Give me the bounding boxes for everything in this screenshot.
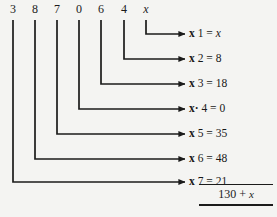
result-value-4: 35: [216, 127, 228, 139]
result-label-1: x 2 = 8: [189, 53, 221, 65]
result-multiplier-2: 3 =: [195, 77, 216, 89]
result-value-5: 48: [216, 152, 228, 164]
result-value-2: 18: [216, 77, 228, 89]
result-value-3: 0: [219, 102, 225, 114]
result-multiplier-5: 6 =: [195, 152, 216, 164]
branch-connector-0: [146, 20, 185, 34]
result-multiplier-0: 1 =: [195, 27, 216, 39]
result-multiplier-4: 5 =: [195, 127, 216, 139]
source-digit-1: 8: [28, 3, 42, 15]
result-label-5: x 6 = 48: [189, 153, 227, 165]
branch-connector-1: [124, 20, 185, 59]
result-multiplier-1: 2 =: [195, 52, 216, 64]
branch-connector-4: [57, 20, 185, 134]
result-label-2: x 3 = 18: [189, 78, 227, 90]
source-digit-6: x: [139, 3, 153, 15]
result-value-0: x: [216, 27, 221, 39]
branch-connector-6: [13, 20, 185, 182]
source-digit-0: 3: [6, 3, 20, 15]
source-digit-4: 6: [94, 3, 108, 15]
result-value-1: 8: [216, 52, 222, 64]
source-digit-2: 7: [50, 3, 64, 15]
branch-connector-2: [101, 20, 185, 84]
sum-variable: x: [249, 188, 254, 200]
sum-bottom-rule: [199, 204, 273, 205]
result-operator-3: x·: [189, 102, 199, 114]
result-label-3: x· 4 = 0: [189, 103, 225, 115]
source-digit-3: 0: [72, 3, 86, 15]
result-label-0: x 1 = x: [189, 28, 221, 40]
result-label-4: x 5 = 35: [189, 128, 227, 140]
source-digit-5: 4: [117, 3, 131, 15]
sum-block: 130 + x: [199, 184, 273, 206]
sum-total: 130 + x: [199, 185, 273, 204]
result-multiplier-3: 4 =: [199, 102, 220, 114]
connector-paths: [13, 20, 185, 182]
sum-prefix: 130 +: [218, 187, 249, 201]
multiplication-branch-diagram: 387064x x 1 = xx 2 = 8x 3 = 18x· 4 = 0x …: [0, 0, 277, 217]
